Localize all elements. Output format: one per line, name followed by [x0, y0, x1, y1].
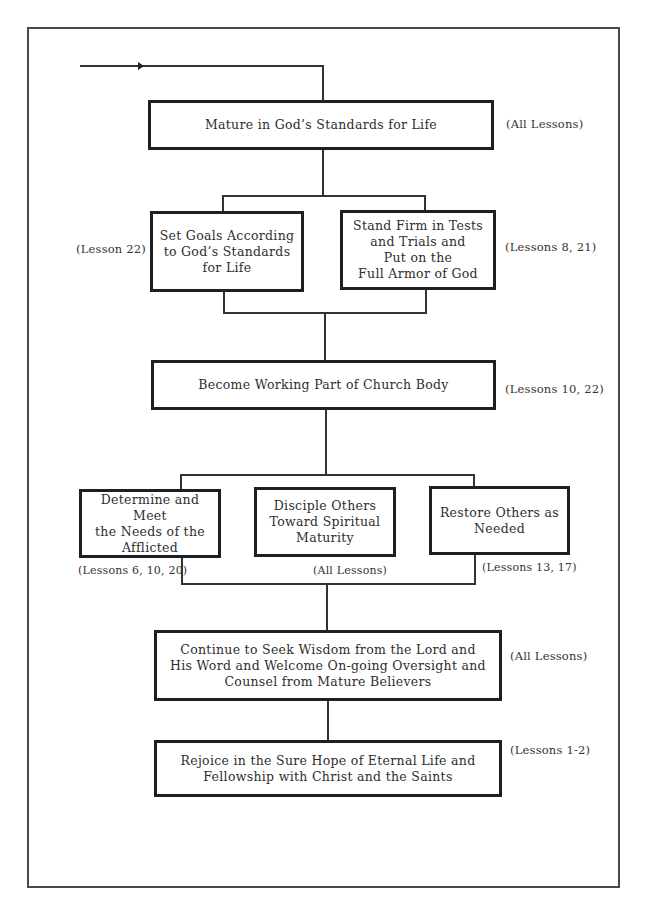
node-rejoice-line: Fellowship with Christ and the Saints: [181, 769, 476, 785]
merge-line: [181, 583, 476, 585]
node-rejoice-line: Rejoice in the Sure Hope of Eternal Life…: [181, 753, 476, 769]
node-mature-note: (All Lessons): [506, 117, 583, 131]
node-rejoice-note: (Lessons 1-2): [510, 743, 590, 757]
connector: [325, 410, 327, 474]
node-set-goals-line: to God’s Standards: [160, 244, 295, 260]
connector: [181, 558, 183, 584]
node-set-goals-line: Set Goals According: [160, 228, 295, 244]
node-wisdom-line: Continue to Seek Wisdom from the Lord an…: [170, 642, 486, 658]
connector: [326, 583, 328, 630]
connector: [222, 195, 224, 211]
node-disciple: Disciple Others Toward Spiritual Maturit…: [254, 487, 396, 557]
node-set-goals-note: (Lesson 22): [76, 242, 146, 256]
node-rejoice: Rejoice in the Sure Hope of Eternal Life…: [154, 740, 502, 797]
node-stand-firm-line: and Trials and: [353, 234, 483, 250]
node-restore-note: (Lessons 13, 17): [482, 561, 577, 574]
node-wisdom: Continue to Seek Wisdom from the Lord an…: [154, 630, 502, 701]
connector: [223, 291, 225, 313]
node-disciple-line: Toward Spiritual: [270, 514, 381, 530]
node-disciple-line: Disciple Others: [270, 498, 381, 514]
connector: [424, 195, 426, 211]
node-disciple-line: Maturity: [270, 530, 381, 546]
node-wisdom-line: His Word and Welcome On-going Oversight …: [170, 658, 486, 674]
node-church-body-label: Become Working Part of Church Body: [198, 377, 448, 393]
node-wisdom-note: (All Lessons): [510, 649, 587, 663]
node-disciple-note: (All Lessons): [313, 564, 387, 577]
node-restore-line: Restore Others as: [440, 505, 559, 521]
node-wisdom-line: Counsel from Mature Believers: [170, 674, 486, 690]
node-afflicted-line: Afflicted: [88, 540, 212, 556]
node-afflicted-line: the Needs of the: [88, 524, 212, 540]
connector: [324, 312, 326, 360]
node-set-goals-line: for Life: [160, 260, 295, 276]
node-afflicted-line: Determine and Meet: [88, 492, 212, 524]
node-afflicted: Determine and Meet the Needs of the Affl…: [79, 489, 221, 558]
node-church-body-note: (Lessons 10, 22): [505, 382, 604, 396]
node-church-body: Become Working Part of Church Body: [151, 360, 496, 410]
connector: [322, 65, 324, 101]
node-stand-firm: Stand Firm in Tests and Trials and Put o…: [340, 210, 496, 290]
node-mature: Mature in God’s Standards for Life: [148, 100, 494, 150]
node-afflicted-note: (Lessons 6, 10, 20): [78, 564, 187, 577]
branch-line: [180, 474, 475, 476]
node-restore-line: Needed: [440, 521, 559, 537]
entry-arrow-line: [80, 65, 323, 67]
node-stand-firm-line: Put on the: [353, 250, 483, 266]
node-stand-firm-line: Full Armor of God: [353, 266, 483, 282]
node-set-goals: Set Goals According to God’s Standards f…: [150, 211, 304, 292]
entry-arrow-icon: [138, 62, 144, 70]
connector: [474, 555, 476, 584]
branch-line: [222, 195, 426, 197]
connector: [180, 474, 182, 489]
node-mature-label: Mature in God’s Standards for Life: [205, 117, 437, 133]
connector: [425, 290, 427, 313]
node-stand-firm-note: (Lessons 8, 21): [505, 240, 596, 254]
connector: [322, 150, 324, 195]
node-stand-firm-line: Stand Firm in Tests: [353, 218, 483, 234]
node-restore: Restore Others as Needed: [429, 486, 570, 555]
connector: [327, 701, 329, 741]
